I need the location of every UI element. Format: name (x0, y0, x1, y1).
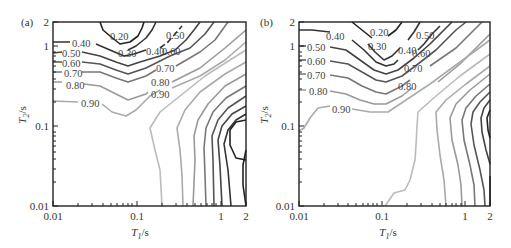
figure: (a) (0, 0, 511, 248)
y-axis-title: T2/s (258, 106, 273, 123)
panel-a-label: (a) (21, 16, 34, 29)
contour-label: 0.60 (412, 48, 430, 59)
panel-a-x-ticks (53, 201, 246, 206)
y-tick-label: 2 (290, 16, 296, 28)
contour-label: 0.30 (118, 48, 136, 59)
contour-label: 0.30 (368, 41, 386, 52)
panel-a-y-ticks (53, 22, 58, 206)
contour-label: 0.50 (307, 42, 325, 53)
contour-label: 0.90 (81, 98, 99, 109)
x-tick-label: 1 (462, 210, 468, 222)
x-tick-label: 0.1 (130, 210, 144, 222)
contour-label: 0.50 (416, 30, 434, 41)
y-tick-label: 1 (44, 40, 50, 52)
panel-b-plot-frame (299, 22, 490, 206)
x-tick-label: 0.1 (375, 210, 389, 222)
contour-label: 0.80 (151, 77, 169, 88)
panel-b: (b) (258, 16, 493, 241)
contour-label: 0.40 (326, 31, 344, 42)
panel-b-contour-labels: 0.20 0.30 0.40 0.40 0.50 0.50 0.60 0.60 … (307, 27, 434, 115)
y-tick-label: 2 (44, 16, 50, 28)
panel-b-y-ticks (299, 22, 304, 206)
contour-label: 0.70 (64, 68, 82, 79)
y-tick-label: 0.01 (30, 200, 49, 212)
contour-label: 0.90 (151, 89, 169, 100)
x-tick-label: 1 (218, 210, 224, 222)
contour-label: 0.70 (156, 63, 174, 74)
x-tick-label: 2 (487, 210, 493, 222)
contour-label: 0.60 (307, 56, 325, 67)
contour-label: 0.90 (332, 104, 350, 115)
panel-b-contours (299, 22, 490, 206)
contour-label: 0.20 (370, 27, 388, 38)
y-tick-label: 1 (290, 40, 296, 52)
contour-label: 0.80 (398, 81, 416, 92)
contour-label: 0.20 (110, 31, 128, 42)
y-tick-label: 0.1 (35, 120, 49, 132)
contour-label: 0.70 (404, 63, 422, 74)
panel-b-label: (b) (260, 16, 273, 29)
contour-label: 0.80 (309, 86, 327, 97)
y-tick-label: 0.01 (276, 200, 295, 212)
x-axis-title: T1/s (379, 226, 396, 241)
contour-label: 0.50 (166, 30, 184, 41)
y-axis-title: T2/s (16, 106, 31, 123)
contour-label: 0.70 (307, 70, 325, 81)
contour-label: 0.60 (162, 46, 180, 57)
panel-a: (a) (16, 16, 249, 241)
x-tick-label: 2 (243, 210, 249, 222)
x-axis-title: T1/s (131, 226, 148, 241)
y-tick-label: 0.1 (281, 120, 295, 132)
contour-label: 0.80 (66, 80, 84, 91)
